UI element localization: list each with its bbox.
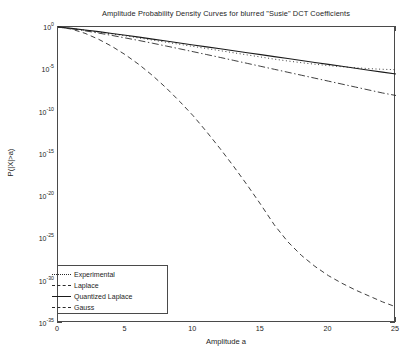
legend-label: Laplace — [74, 282, 99, 289]
x-tick-label: 5 — [123, 324, 127, 333]
y-tick-label: 10-20 — [39, 190, 54, 199]
legend-item-quantized-laplace[interactable]: Quantized Laplace — [58, 291, 167, 302]
legend-item-experimental[interactable]: Experimental — [58, 269, 167, 280]
curve-quantized-laplace — [58, 27, 396, 74]
chart-title: Amplitude Probability Density Curves for… — [57, 9, 395, 18]
legend-box: ExperimentalLaplaceQuantized LaplaceGaus… — [57, 265, 168, 314]
y-axis-tick-labels: 10010-510-1010-1510-2010-2510-3010-35 — [0, 0, 54, 354]
legend-line-sample — [52, 270, 71, 279]
legend-line-sample — [52, 292, 71, 301]
legend-item-laplace[interactable]: Laplace — [58, 280, 167, 291]
y-tick-label: 100 — [43, 21, 54, 30]
y-tick-label: 10-10 — [39, 106, 54, 115]
x-tick-label: 0 — [55, 324, 59, 333]
y-tick-label: 10-15 — [39, 148, 54, 157]
legend-label: Experimental — [74, 271, 115, 278]
legend-item-gauss[interactable]: Gauss — [58, 302, 167, 313]
x-tick-label: 10 — [188, 324, 196, 333]
y-tick-label: 10-35 — [39, 317, 54, 326]
legend-line-sample — [52, 281, 71, 290]
curve-laplace — [58, 27, 396, 96]
figure-container: Amplitude Probability Density Curves for… — [0, 0, 418, 354]
x-tick-label: 25 — [391, 324, 399, 333]
x-tick-label: 15 — [256, 324, 264, 333]
legend-label: Quantized Laplace — [74, 293, 132, 300]
legend-line-sample — [52, 303, 71, 312]
y-tick-label: 10-5 — [42, 64, 54, 73]
x-axis-label: Amplitude a — [57, 337, 395, 346]
legend-label: Gauss — [74, 304, 94, 311]
y-tick-label: 10-25 — [39, 233, 54, 242]
x-tick-label: 20 — [323, 324, 331, 333]
